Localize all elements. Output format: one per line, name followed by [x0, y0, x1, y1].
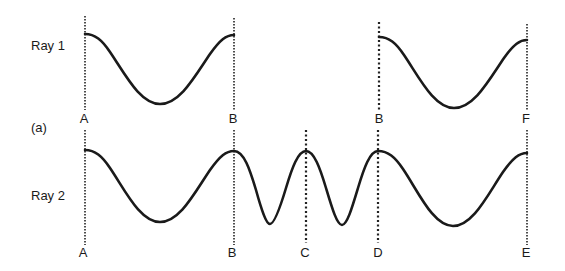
ray2-wave	[85, 150, 527, 226]
ray1-label: Ray 1	[31, 38, 65, 53]
ray2-point-a: A	[79, 245, 88, 260]
ray2-point-c: C	[300, 245, 309, 260]
ray1-wave-b-f	[379, 37, 527, 108]
ray2-label: Ray 2	[31, 188, 65, 203]
panel-label: (a)	[31, 120, 47, 135]
ray1-wave-a-b	[85, 34, 234, 104]
wave-diagram: Ray 1 (a) Ray 2 A B B F A B C D E	[0, 0, 565, 271]
ray1-point-f: F	[522, 111, 530, 126]
ray2-point-e: E	[522, 245, 531, 260]
ray1-point-a: A	[80, 111, 89, 126]
ray1-point-b2: B	[375, 111, 384, 126]
ray2-point-b: B	[228, 245, 237, 260]
ray1-point-b: B	[229, 111, 238, 126]
ray2-point-d: D	[373, 245, 382, 260]
